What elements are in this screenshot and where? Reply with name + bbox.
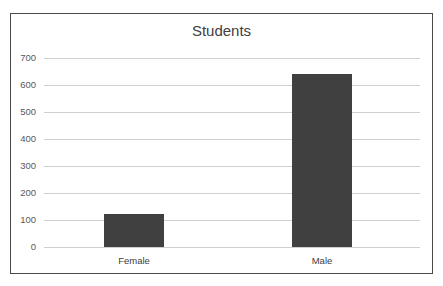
y-tick-label: 100 bbox=[0, 214, 36, 225]
y-tick-label: 600 bbox=[0, 79, 36, 90]
plot-area: 0100200300400500600700FemaleMale bbox=[44, 58, 420, 247]
y-tick-label: 400 bbox=[0, 133, 36, 144]
gridline bbox=[44, 85, 420, 86]
gridline bbox=[44, 193, 420, 194]
y-tick-label: 300 bbox=[0, 160, 36, 171]
x-tick-label: Male bbox=[282, 255, 362, 266]
x-tick-label: Female bbox=[94, 255, 174, 266]
gridline bbox=[44, 166, 420, 167]
y-tick-label: 0 bbox=[0, 241, 36, 252]
bar-male bbox=[292, 74, 352, 247]
gridline bbox=[44, 220, 420, 221]
gridline bbox=[44, 112, 420, 113]
y-tick-label: 700 bbox=[0, 52, 36, 63]
y-tick-label: 200 bbox=[0, 187, 36, 198]
bar-female bbox=[104, 214, 164, 247]
chart-title: Students bbox=[0, 22, 443, 39]
y-tick-label: 500 bbox=[0, 106, 36, 117]
gridline bbox=[44, 247, 420, 248]
gridline bbox=[44, 139, 420, 140]
gridline bbox=[44, 58, 420, 59]
